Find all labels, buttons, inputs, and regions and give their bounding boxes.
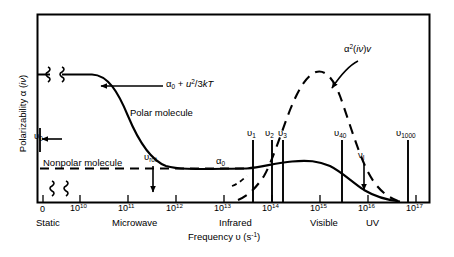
band-label-microwave: Microwave [112, 218, 157, 228]
band-label-static: Static [36, 218, 60, 228]
x-tick-1e17: 1017 [406, 203, 423, 213]
leader-alpha-squared [332, 61, 358, 88]
x-axis-ticks [43, 195, 416, 202]
annotation-alpha-squared: α2(iν)v [344, 44, 371, 54]
curve-alpha-squared [238, 72, 398, 201]
marker-label-nu1: υ1 [247, 128, 256, 139]
y-axis-title-text: Polarizability [17, 99, 28, 152]
figure-container: Polarizability α (iν) Frequency υ (s-1) … [0, 0, 454, 257]
x-axis-break [50, 181, 68, 196]
y-axis-title-symbol: α (iν) [17, 75, 28, 96]
x-axis-title-text: Frequency [188, 231, 233, 242]
x-tick-1e10: 1010 [70, 203, 87, 213]
x-axis-title-symbol: υ (s-1) [236, 231, 261, 242]
band-label-uv: UV [366, 218, 379, 228]
x-tick-0: 0 [40, 205, 45, 214]
ir-dashed-kink [232, 176, 247, 186]
annotation-nonpolar-molecule: Nonpolar molecule [43, 158, 122, 168]
x-tick-1e12: 1012 [166, 203, 183, 213]
marker-label-nu0: υ0 [34, 131, 43, 142]
marker-label-nu2: υ2 [265, 128, 274, 139]
x-tick-1e14: 1014 [262, 203, 279, 213]
marker-label-nu1000: υ1000 [396, 128, 416, 139]
band-label-visible: Visible [310, 218, 338, 228]
marker-label-nu40: υ40 [334, 128, 346, 139]
x-tick-1e15: 1015 [310, 203, 327, 213]
band-label-infrared: Infrared [219, 218, 252, 228]
x-tick-1e11: 1011 [118, 203, 134, 213]
annotation-alpha0-plus-kt: α0 + u2/3kT [166, 79, 213, 90]
x-axis-title: Frequency υ (s-1) [188, 232, 260, 242]
y-axis-title: Polarizability α (iν) [17, 54, 28, 174]
x-tick-1e13: 1013 [214, 203, 231, 213]
marker-label-nu-I: νI [358, 150, 365, 161]
annotation-polar-molecule: Polar molecule [130, 108, 193, 118]
marker-label-nu-rot: υrot [144, 152, 157, 163]
x-tick-1e16: 1016 [358, 203, 375, 213]
marker-label-nu3: υ3 [278, 128, 287, 139]
curve-merged-tail [247, 161, 400, 202]
annotation-alpha0: α0 [216, 156, 225, 167]
